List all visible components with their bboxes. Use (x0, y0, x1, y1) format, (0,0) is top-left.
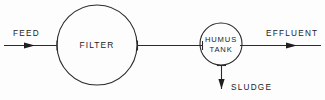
effluent-arrow-head (286, 43, 297, 49)
humus-tank-node: HUMUS TANK (200, 23, 242, 65)
feed-label: FEED (13, 29, 40, 38)
feed-arrow-head (24, 43, 35, 49)
humus-tank-circle (200, 23, 242, 65)
humus-tank-label-line2: TANK (209, 45, 232, 54)
flow-diagram-canvas: FEED FILTER HUMUS TANK EFFLUENT (0, 0, 325, 100)
filter-node: FILTER (57, 5, 137, 85)
effluent-label: EFFLUENT (266, 29, 318, 38)
feed-flow-group: FEED (4, 29, 57, 51)
sludge-label: SLUDGE (231, 83, 272, 92)
filter-to-humus-link (137, 41, 203, 51)
process-flow-diagram: FEED FILTER HUMUS TANK EFFLUENT (0, 0, 325, 100)
sludge-flow-group: SLUDGE (217, 65, 272, 92)
effluent-flow-group: EFFLUENT (240, 29, 321, 49)
humus-tank-label-line1: HUMUS (205, 35, 237, 44)
filter-label: FILTER (79, 40, 114, 50)
sludge-arrow-head (218, 79, 224, 89)
